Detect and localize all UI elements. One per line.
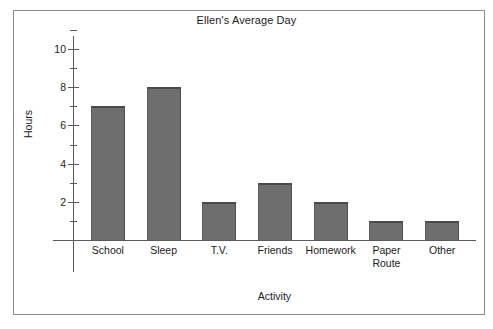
bar (425, 221, 459, 240)
y-tick-label: 10 (26, 44, 66, 55)
bar (91, 106, 125, 240)
x-tick-label: Paper Route (359, 244, 415, 269)
bar (202, 202, 236, 240)
y-tick-label: 2 (26, 197, 66, 208)
x-tick-label: T.V. (191, 244, 247, 257)
x-tick-label: Friends (247, 244, 303, 257)
y-tick-minor (70, 183, 77, 184)
bar (258, 183, 292, 240)
y-tick-minor (70, 145, 77, 146)
y-axis-line (73, 36, 74, 272)
bar (369, 221, 403, 240)
bar (147, 87, 181, 240)
x-tick-label: Sleep (136, 244, 192, 257)
chart-figure: Ellen's Average Day 246810 Hours SchoolS… (0, 0, 493, 329)
chart-frame (13, 10, 485, 315)
y-tick-label: 8 (26, 82, 66, 93)
bar (314, 202, 348, 240)
y-tick-major (68, 202, 79, 203)
y-tick-minor (70, 221, 77, 222)
y-tick-major (68, 87, 79, 88)
y-tick-minor (70, 30, 77, 31)
y-tick-major (68, 49, 79, 50)
x-tick-label: Homework (303, 244, 359, 257)
y-tick-label: 4 (26, 159, 66, 170)
x-tick-label: Other (414, 244, 470, 257)
x-axis-line (53, 240, 476, 241)
y-tick-minor (70, 68, 77, 69)
y-tick-major (68, 164, 79, 165)
chart-title: Ellen's Average Day (0, 14, 493, 26)
x-axis-title: Activity (73, 290, 476, 302)
y-tick-minor (70, 106, 77, 107)
y-axis-title: Hours (22, 94, 34, 154)
y-tick-major (68, 125, 79, 126)
x-tick-label: School (80, 244, 136, 257)
